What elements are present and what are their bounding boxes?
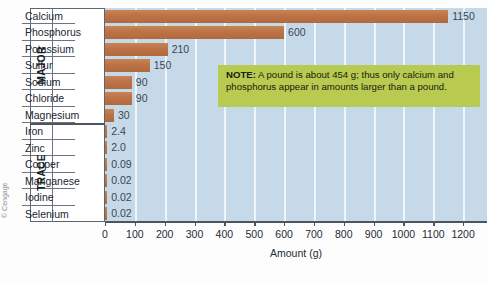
gridline-900 <box>374 8 376 222</box>
x-tick-1000 <box>403 221 404 226</box>
value-label-potassium: 210 <box>172 43 190 56</box>
gridline-400 <box>224 8 226 222</box>
value-label-copper: 0.09 <box>111 158 131 171</box>
gridline-200 <box>165 8 167 222</box>
x-tick-600 <box>284 221 285 226</box>
gridline-300 <box>195 8 197 222</box>
note-text: A pound is about 454 g; thus only calciu… <box>226 69 454 92</box>
value-label-sulfur: 150 <box>154 59 172 72</box>
value-label-iron: 2.4 <box>111 125 126 138</box>
x-tick-200 <box>165 221 166 226</box>
plot-area <box>105 8 487 222</box>
bar-sodium <box>105 76 132 89</box>
mineral-amounts-chart: 11506002101509090302.42.00.090.020.020.0… <box>0 0 487 285</box>
gridline-1100 <box>433 8 435 222</box>
note-callout: NOTE: A pound is about 454 g; thus only … <box>218 65 480 107</box>
x-tick-900 <box>374 221 375 226</box>
gridline-100 <box>135 8 137 222</box>
value-label-magnesium: 30 <box>118 109 130 122</box>
copyright-credit: © Cengage <box>1 162 13 218</box>
group-label-trace: TRACE <box>30 123 52 222</box>
gridline-600 <box>284 8 286 222</box>
group-label-major: MAJOR <box>30 8 52 123</box>
bar-zinc <box>105 141 107 154</box>
gridline-500 <box>254 8 256 222</box>
x-tick-800 <box>344 221 345 226</box>
bar-magnesium <box>105 109 114 122</box>
group-label-text: MAJOR <box>36 47 47 85</box>
bar-selenium <box>105 207 107 220</box>
bar-calcium <box>105 10 448 23</box>
gridline-700 <box>314 8 316 222</box>
value-label-calcium: 1150 <box>452 10 475 23</box>
note-prefix: NOTE: <box>226 69 256 80</box>
x-tick-label-1200: 1200 <box>443 228 483 240</box>
bar-potassium <box>105 43 168 56</box>
bar-chloride <box>105 92 132 105</box>
gridline-1200 <box>463 8 465 222</box>
bar-iodine <box>105 191 107 204</box>
x-tick-1100 <box>433 221 434 226</box>
bar-copper <box>105 158 107 171</box>
x-axis-line <box>105 221 487 223</box>
gridline-800 <box>344 8 346 222</box>
bar-phosphorus <box>105 26 284 39</box>
value-label-iodine: 0.02 <box>111 191 131 204</box>
x-axis-title: Amount (g) <box>105 247 487 259</box>
bar-sulfur <box>105 59 150 72</box>
value-label-selenium: 0.02 <box>111 207 131 220</box>
value-label-chloride: 90 <box>136 92 148 105</box>
x-tick-0 <box>105 221 106 226</box>
group-label-text: TRACE <box>36 154 47 190</box>
value-label-sodium: 90 <box>136 76 148 89</box>
x-tick-400 <box>224 221 225 226</box>
value-label-zinc: 2.0 <box>111 141 126 154</box>
x-tick-700 <box>314 221 315 226</box>
bar-iron <box>105 125 107 138</box>
x-tick-1200 <box>463 221 464 226</box>
value-label-manganese: 0.02 <box>111 174 131 187</box>
gridline-1000 <box>403 8 405 222</box>
x-tick-100 <box>135 221 136 226</box>
bar-manganese <box>105 174 107 187</box>
x-tick-300 <box>195 221 196 226</box>
value-label-phosphorus: 600 <box>288 26 306 39</box>
x-tick-500 <box>254 221 255 226</box>
